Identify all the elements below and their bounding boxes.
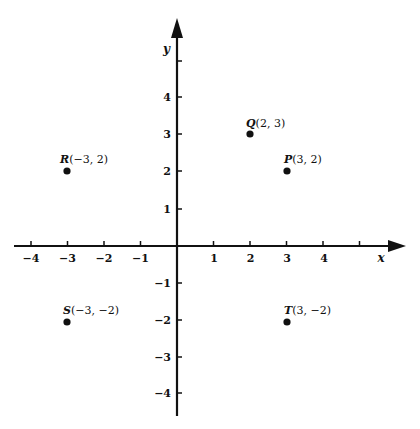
y-tick-label: −3 [154,351,171,364]
x-tick-label: 4 [320,252,328,265]
point-marker [63,318,70,325]
y-axis-label: y [162,42,171,56]
y-tick-label: 3 [163,128,171,141]
y-tick-label: −2 [154,314,171,327]
point-t: T(3, −2) [283,304,331,326]
x-tick-labels: −4 −3 −2 −1 1 2 3 4 [23,252,329,265]
point-s: S(−3, −2) [63,304,119,326]
point-label: P(3, 2) [283,153,322,166]
y-tick-label: 2 [163,165,171,178]
point-marker [283,318,290,325]
point-marker [63,167,70,174]
y-tick-label: 4 [163,91,171,104]
coordinate-plane: −4 −3 −2 −1 1 2 3 4 x 4 3 2 [0,0,420,429]
point-q: Q(2, 3) [246,117,285,138]
x-tick-label: 3 [283,252,291,265]
point-label: T(3, −2) [284,304,331,317]
x-tick-label: 1 [210,252,218,265]
point-p: P(3, 2) [283,153,322,175]
x-axis-label: x [376,251,385,265]
point-label: Q(2, 3) [246,117,285,130]
y-tick-label: −4 [154,387,171,400]
y-tick-label: −1 [154,277,171,290]
point-label: R(−3, 2) [59,153,108,166]
x-tick-label: −1 [132,252,149,265]
x-tick-label: −2 [96,252,113,265]
x-tick-label: 2 [247,252,255,265]
y-tick-label: 1 [163,203,171,216]
point-r: R(−3, 2) [59,153,108,175]
x-tick-label: −4 [23,252,40,265]
point-marker [283,167,290,174]
x-axis-arrowhead [388,240,406,252]
y-axis: 4 3 2 1 −1 −2 −3 −4 y [154,18,183,416]
y-axis-arrowhead [171,18,183,38]
point-label: S(−3, −2) [63,304,119,317]
x-axis: −4 −3 −2 −1 1 2 3 4 x [14,240,406,265]
point-marker [246,130,253,137]
x-tick-label: −3 [59,252,76,265]
